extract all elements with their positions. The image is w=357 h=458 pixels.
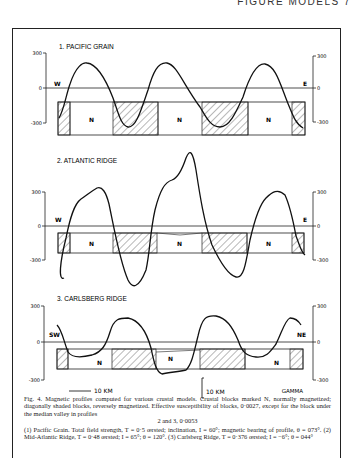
panel-title: 3. CARLSBERG RIDGE: [57, 295, 127, 302]
y-tick-300: 300: [32, 50, 42, 56]
direction-right: E: [303, 80, 307, 87]
svg-text:0: 0: [317, 339, 320, 345]
caption-paragraph-1: Fig. 4. Magnetic profiles computed for v…: [24, 395, 331, 417]
svg-text:0: 0: [317, 85, 320, 91]
svg-text:0: 0: [38, 223, 41, 229]
vertical-scale-label: 10 KM: [206, 388, 225, 395]
svg-text:0: 0: [37, 339, 40, 345]
svg-text:N: N: [177, 240, 182, 247]
svg-text:300: 300: [317, 189, 327, 195]
svg-text:N: N: [177, 116, 182, 123]
svg-text:300: 300: [317, 53, 327, 59]
svg-text:N: N: [97, 359, 102, 366]
svg-text:N: N: [266, 116, 271, 123]
direction-left: W: [54, 80, 61, 87]
panel-title: 1. PACIFIC GRAIN: [59, 43, 114, 50]
svg-text:300: 300: [31, 189, 41, 195]
svg-text:N: N: [89, 240, 94, 247]
svg-text:N: N: [266, 240, 271, 247]
svg-text:-300: -300: [30, 257, 41, 263]
y-tick-minus-300: -300: [31, 120, 42, 126]
panel-atlantic-ridge: 2. ATLANTIC RIDGE 300 0 -300 300 0 -300 …: [30, 153, 329, 286]
panel-pacific-grain: 1. PACIFIC GRAIN 300 0 -300 300 0 -300 W…: [31, 43, 329, 135]
svg-text:N: N: [168, 355, 173, 362]
svg-text:-300: -300: [29, 377, 40, 383]
caption-paragraph-1-end: 2 and 3, 0·0053: [24, 417, 331, 424]
svg-text:-300: -300: [317, 119, 328, 125]
y-tick-0: 0: [39, 85, 42, 91]
svg-text:NE: NE: [297, 331, 306, 338]
panel-title: 2. ATLANTIC RIDGE: [57, 157, 118, 164]
svg-text:E: E: [303, 216, 307, 223]
block-label-normal: N: [89, 116, 94, 123]
svg-text:SW: SW: [49, 331, 60, 338]
profile-line: [60, 153, 305, 286]
svg-text:0: 0: [317, 223, 320, 229]
svg-text:N: N: [274, 359, 279, 366]
svg-text:W: W: [55, 216, 62, 223]
units-label: GAMMA: [282, 388, 304, 394]
svg-text:300: 300: [30, 303, 40, 309]
panel-carlsberg-ridge: 3. CARLSBERG RIDGE 300 0 -300 300 0 -300…: [29, 295, 329, 383]
horizontal-scale-label: 10 KM: [94, 387, 113, 394]
svg-text:-300: -300: [317, 257, 328, 263]
caption-paragraph-2: (1) Pacific Grain. Total field strength,…: [24, 426, 331, 441]
svg-text:300: 300: [317, 303, 327, 309]
figure-caption: Fig. 4. Magnetic profiles computed for v…: [24, 395, 331, 442]
svg-text:-300: -300: [317, 377, 328, 383]
